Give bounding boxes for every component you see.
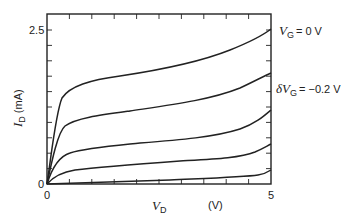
annotation-delta-vg: δVG= −0.2 V [276, 81, 341, 98]
curve-vg-2 [47, 110, 271, 184]
iv-curves [47, 29, 271, 184]
x-tick-label-5: 5 [268, 189, 274, 201]
plot-frame [47, 14, 271, 184]
curve-vg-1 [47, 73, 271, 184]
x-tick-label-0: 0 [44, 189, 50, 201]
iv-chart: 2.5 0 0 5 ID(mA) VD (V) VG= 0 V δVG= −0.… [0, 0, 348, 221]
x-axis-unit: (V) [208, 199, 223, 211]
svg-text:ID(mA): ID(mA) [10, 89, 27, 128]
y-ticks [47, 30, 271, 169]
annotation-vg-0: VG= 0 V [279, 23, 323, 40]
y-tick-label-2.5: 2.5 [29, 24, 44, 36]
y-axis-label: ID(mA) [10, 89, 27, 128]
x-axis-label: VD [152, 198, 167, 215]
